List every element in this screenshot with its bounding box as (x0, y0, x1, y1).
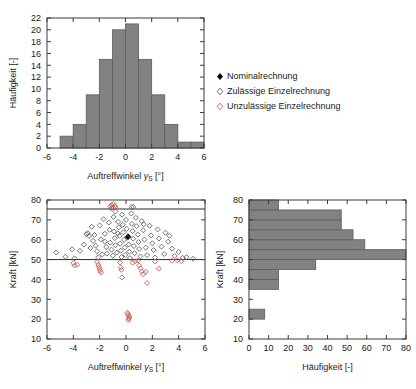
tick-label: 80 (401, 343, 411, 353)
figure-root: -6-4-202460246810121416182022Auftreffwin… (0, 0, 416, 389)
histogram-bar (126, 24, 139, 148)
histogram-bar (165, 124, 178, 148)
valid-point (135, 232, 140, 237)
axis-ticks: -6-4-202461020304050607080 (31, 195, 208, 353)
valid-point (141, 228, 146, 233)
y-axis-label: Kraft [kN] (8, 251, 18, 289)
bars (60, 24, 204, 148)
tick-label: -6 (43, 343, 51, 353)
invalid-point (156, 266, 161, 271)
x-axis-label: Auftreffwinkel γS [°] (88, 362, 164, 373)
tick-label: 60 (233, 235, 243, 245)
tick-label: 80 (31, 195, 41, 205)
valid-point (127, 249, 132, 254)
valid-point (145, 253, 150, 258)
y-axis-label: Häufigkeit [-] (8, 58, 18, 109)
histogram-bar (249, 230, 353, 240)
valid-point (104, 251, 109, 256)
valid-point (102, 231, 107, 236)
valid-point (167, 233, 172, 238)
valid-point (155, 227, 160, 232)
histogram-bar (249, 260, 316, 270)
tick-label: 50 (31, 255, 41, 265)
histogram-bar (99, 59, 112, 148)
tick-label: 10 (31, 334, 41, 344)
angle-histogram-svg: -6-4-202460246810121416182022Auftreffwin… (0, 0, 212, 192)
tick-label: 80 (233, 195, 243, 205)
valid-point (122, 245, 127, 250)
valid-point (142, 237, 147, 242)
tick-label: 10 (31, 84, 41, 94)
tick-label: -6 (43, 152, 51, 162)
valid-point (124, 226, 129, 231)
x-axis-label: Häufigkeit [-] (302, 362, 353, 372)
valid-point (89, 224, 94, 229)
valid-point (116, 219, 121, 224)
histogram-bar (249, 250, 406, 260)
valid-point (101, 217, 106, 222)
histogram-bar (249, 220, 341, 230)
open-diamond-icon (213, 86, 227, 97)
valid-point (70, 247, 75, 252)
valid-point (129, 211, 134, 216)
series (71, 201, 184, 322)
tick-label: 0 (36, 143, 41, 153)
tick-label: 20 (233, 314, 243, 324)
valid-point (133, 215, 138, 220)
histogram-bar (249, 240, 365, 250)
scatter-panel: -6-4-202461020304050607080Auftreffwinkel… (0, 186, 215, 389)
tick-label: -2 (95, 152, 103, 162)
valid-point (121, 230, 126, 235)
tick-label: 60 (362, 343, 372, 353)
valid-point (63, 254, 68, 259)
valid-point (162, 252, 167, 257)
tick-label: 18 (31, 37, 41, 47)
tick-label: 0 (123, 343, 128, 353)
legend-item: Unzulässige Einzelrechnung (213, 99, 413, 114)
x-axis-label: Auftreffwinkel γS [°] (87, 171, 163, 182)
legend-label: Zulässige Einzelrechnung (227, 86, 330, 97)
tick-label: 40 (233, 275, 243, 285)
valid-point (166, 239, 171, 244)
valid-point (106, 220, 111, 225)
bars (249, 200, 406, 319)
valid-point (150, 241, 155, 246)
valid-point (139, 219, 144, 224)
valid-point (72, 256, 77, 261)
tick-label: 4 (175, 152, 180, 162)
tick-label: 2 (149, 152, 154, 162)
tick-label: 0 (123, 152, 128, 162)
valid-point (151, 248, 156, 253)
tick-label: 2 (150, 343, 155, 353)
valid-point (191, 256, 196, 261)
tick-label: 30 (233, 295, 243, 305)
legend-item: Nominalrechnung (213, 69, 413, 84)
svg-text:Auftreffwinkel γS [°]: Auftreffwinkel γS [°] (88, 362, 164, 373)
tick-label: 40 (322, 343, 332, 353)
valid-point (170, 246, 175, 251)
invalid-point (120, 275, 125, 280)
valid-point (163, 230, 168, 235)
force-histogram-panel: 010203040506070801020304050607080Häufigk… (213, 186, 416, 389)
valid-point (149, 233, 154, 238)
valid-point (92, 232, 97, 237)
tick-label: 50 (233, 255, 243, 265)
valid-point (138, 254, 143, 259)
valid-point (124, 217, 129, 222)
valid-point (110, 253, 115, 258)
valid-point (131, 244, 136, 249)
valid-point (159, 244, 164, 249)
tick-label: 20 (31, 314, 41, 324)
tick-label: 6 (202, 343, 207, 353)
tick-label: 60 (31, 235, 41, 245)
tick-label: 70 (31, 215, 41, 225)
valid-point (136, 240, 141, 245)
tick-label: 12 (31, 72, 41, 82)
tick-label: 2 (36, 131, 41, 141)
tick-label: -2 (96, 343, 104, 353)
tick-label: 6 (201, 152, 206, 162)
invalid-point (118, 260, 123, 265)
valid-point (93, 243, 98, 248)
valid-point (109, 247, 114, 252)
legend-item: Zulässige Einzelrechnung (213, 84, 413, 99)
